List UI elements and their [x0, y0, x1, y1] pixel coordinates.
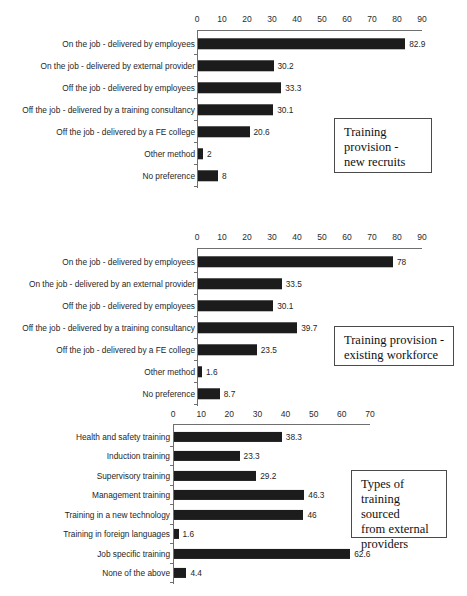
chart-row: None of the above4.4: [0, 564, 467, 584]
y-axis-tick-mark: [194, 404, 197, 405]
x-axis-tick-label: 40: [292, 232, 301, 242]
x-axis-tick-label: 50: [317, 14, 326, 24]
category-label: Other method: [0, 149, 195, 160]
x-axis-tick-label: 40: [292, 14, 301, 24]
bar: [198, 148, 203, 159]
category-label: No preference: [0, 389, 195, 400]
bar: [174, 568, 186, 578]
x-axis-tick-label: 50: [309, 409, 318, 419]
bar-value-label: 30.2: [278, 61, 294, 72]
chart-caption-line: new recruits: [344, 155, 423, 170]
x-axis-tick-label: 30: [253, 409, 262, 419]
bar-value-label: 46.3: [308, 490, 324, 501]
chart-caption-line: existing workforce: [344, 348, 445, 363]
x-axis-tick-label: 60: [342, 232, 351, 242]
x-axis-tick-label: 10: [217, 14, 226, 24]
x-axis-tick-label: 10: [217, 232, 226, 242]
x-axis-tick-label: 90: [417, 232, 426, 242]
bar: [198, 126, 250, 137]
bar: [198, 278, 282, 289]
bar: [198, 82, 281, 93]
category-label: On the job - delivered by employees: [0, 257, 195, 268]
bar-value-label: 30.1: [277, 301, 293, 312]
bar: [198, 388, 220, 399]
bar: [198, 300, 273, 311]
chart-row: On the job - delivered by employees78: [0, 251, 467, 273]
chart-row: On the job - delivered by an external pr…: [0, 273, 467, 295]
bar-value-label: 20.6: [254, 127, 270, 138]
bar-value-label: 23.5: [261, 345, 277, 356]
bar: [174, 432, 282, 442]
category-label: Off the job - delivered by a FE college: [0, 127, 195, 138]
bar: [198, 366, 202, 377]
x-axis-tick-label: 20: [242, 232, 251, 242]
bar: [198, 60, 274, 71]
bar-value-label: 8.7: [224, 389, 236, 400]
bar-value-label: 82.9: [409, 39, 425, 50]
category-label: None of the above: [0, 568, 170, 579]
x-axis-tick-label: 70: [367, 232, 376, 242]
chart-caption-line: Training provision -: [344, 333, 445, 348]
category-label: Training in a new technology: [0, 509, 170, 520]
x-axis-tick-label: 60: [342, 14, 351, 24]
category-label: Off the job - delivered by a FE college: [0, 345, 195, 356]
bar: [198, 322, 297, 333]
x-axis-tick-label: 20: [225, 409, 234, 419]
category-label: Other method: [0, 367, 195, 378]
bar-value-label: 1.6: [206, 367, 218, 378]
x-axis-tick-label: 30: [267, 14, 276, 24]
chart-caption-line: Training: [344, 125, 423, 140]
x-axis-tick-label: 10: [196, 409, 205, 419]
bar: [198, 104, 273, 115]
y-axis-tick-mark: [194, 186, 197, 187]
x-axis-line: [197, 248, 422, 249]
chart-row: On the job - delivered by employees82.9: [0, 33, 467, 55]
bar-value-label: 2: [207, 149, 212, 160]
chart-caption-box: Training provision -existing workforce: [334, 326, 454, 366]
bar-value-label: 38.3: [286, 431, 302, 442]
chart-caption-line: Types of: [361, 477, 438, 492]
chart-caption-line: provision -: [344, 140, 423, 155]
bar: [174, 490, 304, 500]
category-label: Off the job - delivered by employees: [0, 301, 195, 312]
x-axis-tick-label: 50: [317, 232, 326, 242]
x-axis-tick-label: 40: [281, 409, 290, 419]
bar-value-label: 8: [222, 171, 227, 182]
chart-row: Health and safety training38.3: [0, 427, 467, 447]
chart-row: No preference8.7: [0, 383, 467, 405]
bar-value-label: 4.4: [190, 568, 202, 579]
x-axis-tick-label: 80: [392, 232, 401, 242]
category-label: Training in foreign languages: [0, 529, 170, 540]
chart-caption-box: Trainingprovision -new recruits: [334, 118, 432, 173]
x-axis-tick-label: 70: [367, 14, 376, 24]
chart-row: Induction training23.3: [0, 447, 467, 467]
bar-value-label: 30.1: [277, 105, 293, 116]
category-label: On the job - delivered by an external pr…: [0, 279, 195, 290]
bar-value-label: 33.3: [285, 83, 301, 94]
chart-row: Off the job - delivered by employees33.3: [0, 77, 467, 99]
chart-caption-line: training sourced: [361, 492, 438, 522]
bar: [174, 451, 240, 461]
category-label: Job specific training: [0, 548, 170, 559]
chart-caption-box: Types oftraining sourcedfrom externalpro…: [351, 470, 447, 538]
x-axis-tick-label: 0: [171, 409, 176, 419]
category-label: Off the job - delivered by a training co…: [0, 105, 195, 116]
bar: [198, 38, 405, 49]
chart-row: Off the job - delivered by employees30.1: [0, 295, 467, 317]
bar-value-label: 23.3: [244, 451, 260, 462]
bar: [198, 344, 257, 355]
chart-caption-line: from external: [361, 522, 438, 537]
bar: [174, 510, 303, 520]
y-axis-tick-mark: [170, 582, 173, 583]
x-axis-tick-label: 0: [195, 232, 200, 242]
x-axis-line: [173, 424, 370, 425]
bar: [174, 549, 350, 559]
x-axis-tick-label: 80: [392, 14, 401, 24]
x-axis-tick-label: 90: [417, 14, 426, 24]
category-label: Supervisory training: [0, 470, 170, 481]
bar-value-label: 33.5: [286, 279, 302, 290]
bar: [174, 529, 179, 539]
bar-charts-page: { "chart_data": [ { "type": "bar", "orie…: [0, 0, 467, 596]
bar: [198, 170, 218, 181]
x-axis-tick-label: 60: [337, 409, 346, 419]
